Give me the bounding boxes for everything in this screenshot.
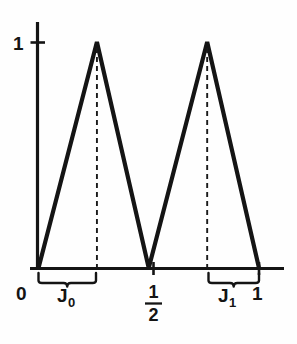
figure-container: 1 0 J 0 1 2 J 1 1 — [0, 0, 297, 344]
interval-j0-label: J — [57, 285, 68, 306]
tent-function-plot: 1 0 J 0 1 2 J 1 1 — [0, 0, 297, 344]
y-axis-label-one: 1 — [13, 33, 24, 54]
tent-function-curve — [39, 42, 260, 268]
interval-j1-subscript: 1 — [229, 295, 236, 310]
x-axis-label-half-numerator: 1 — [148, 282, 158, 302]
interval-j0-subscript: 0 — [68, 295, 75, 310]
x-axis-label-half-denominator: 2 — [148, 305, 158, 325]
x-axis-label-zero: 0 — [16, 283, 27, 304]
x-axis-label-one: 1 — [252, 283, 263, 304]
interval-j1-label: J — [218, 285, 229, 306]
